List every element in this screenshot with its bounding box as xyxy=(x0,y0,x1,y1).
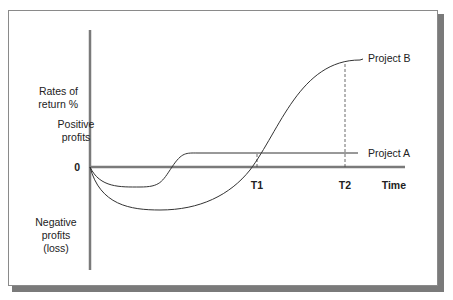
negative-label-3: (loss) xyxy=(43,242,69,254)
t2-label: T2 xyxy=(339,179,351,191)
project-b-line xyxy=(90,60,360,210)
chart-svg: Rates of return % Positive profits 0 Neg… xyxy=(0,0,453,300)
project-a-line xyxy=(90,153,358,187)
project-b-label: Project B xyxy=(368,52,411,64)
project-a-label: Project A xyxy=(368,147,410,159)
negative-label-2: profits xyxy=(42,229,71,241)
y-label-line1: Rates of xyxy=(39,85,78,97)
negative-label-1: Negative xyxy=(35,216,77,228)
positive-label-2: profits xyxy=(62,131,91,143)
positive-label-1: Positive xyxy=(58,118,95,130)
time-label: Time xyxy=(382,179,406,191)
y-label-line2: return % xyxy=(38,98,78,110)
zero-label: 0 xyxy=(74,161,80,173)
t1-label: T1 xyxy=(251,179,263,191)
